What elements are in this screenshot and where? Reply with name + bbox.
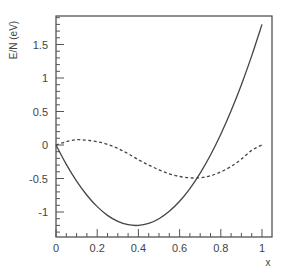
x-tick-label: 0.6 <box>172 242 187 254</box>
y-tick-label: -1 <box>38 206 48 218</box>
x-axis-label: x <box>266 257 271 268</box>
y-axis-ticks: -1-0.500.511.5 <box>29 18 64 232</box>
y-tick-label: 1.5 <box>33 39 48 51</box>
x-tick-label: 0.2 <box>90 242 105 254</box>
plot-curves <box>56 24 262 225</box>
plot-frame <box>56 16 272 237</box>
y-tick-label: 0.5 <box>33 106 48 118</box>
x-axis-ticks: 00.20.40.60.81 <box>53 229 265 254</box>
dashed-curve <box>56 140 262 178</box>
x-tick-label: 0 <box>53 242 59 254</box>
chart: 00.20.40.60.81 -1-0.500.511.5 x E/N (eV) <box>0 0 287 277</box>
y-tick-label: 0 <box>42 139 48 151</box>
y-axis-label: E/N (eV) <box>8 21 19 59</box>
y-tick-label: -0.5 <box>29 173 48 185</box>
solid-curve <box>56 24 262 225</box>
x-tick-label: 1 <box>259 242 265 254</box>
x-tick-label: 0.4 <box>131 242 146 254</box>
x-tick-label: 0.8 <box>213 242 228 254</box>
y-tick-label: 1 <box>42 72 48 84</box>
